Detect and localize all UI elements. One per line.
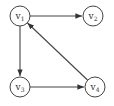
node-subscript: 1 (21, 15, 25, 22)
node-subscript: 2 (94, 15, 98, 22)
node-subscript: 4 (96, 86, 100, 93)
node-v2: v2 (83, 6, 103, 26)
node-v1: v1 (10, 6, 30, 26)
directed-graph: v1 v2 v3 v4 (0, 0, 114, 106)
node-v4: v4 (85, 77, 105, 97)
edge-v4-v1 (28, 23, 88, 80)
node-subscript: 3 (21, 86, 25, 93)
node-v3: v3 (10, 77, 30, 97)
